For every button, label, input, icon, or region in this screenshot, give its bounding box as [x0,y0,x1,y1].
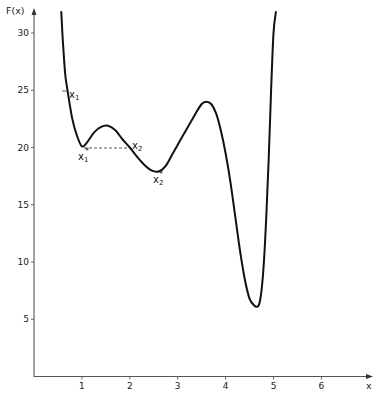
y-tick-label: 20 [18,143,30,153]
y-tick-label: 15 [18,200,29,210]
svg-text:*: * [159,170,163,179]
x-ticks: 123456 [79,377,325,392]
x-axis-arrow-icon [366,374,373,379]
function-plot: 51015202530 123456 F(x) x x1 x1 * x2 x2 … [0,0,384,403]
y-tick-label: 10 [18,257,30,267]
y-tick-label: 30 [18,28,30,38]
y-ticks: 51015202530 [18,28,34,324]
y-tick-label: 25 [18,85,29,95]
y-axis-arrow-icon [32,8,37,15]
x-tick-label: 3 [175,381,181,391]
x-tick-label: 1 [79,381,85,391]
annotation-x1: x1 [62,89,79,102]
svg-text:x1: x1 [69,89,79,102]
x-tick-label: 2 [127,381,133,391]
axes [32,8,374,379]
x-tick-label: 6 [319,381,325,391]
annotation-x1-star: x1 * [78,147,89,164]
y-tick-label: 5 [23,314,29,324]
function-curve [61,12,276,307]
annotation-x2-star: x2 * [153,170,163,187]
y-axis-label: F(x) [6,5,25,16]
svg-text:*: * [85,147,89,156]
x-tick-label: 5 [271,381,277,391]
x-axis-label: x [366,380,372,391]
x-tick-label: 4 [223,381,229,391]
